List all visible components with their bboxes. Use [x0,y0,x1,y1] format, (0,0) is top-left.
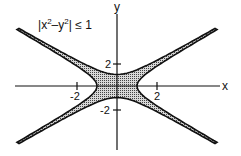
y-tick-label-neg2: -2 [100,104,110,116]
x-tick-label-2: 2 [154,90,160,102]
hyperbola-plot: x y -2 2 2 -2 [0,0,241,156]
x-tick-label-neg2: -2 [70,90,80,102]
region-equation-label: |x2–y2| ≤ 1 [38,17,92,32]
y-axis-label: y [114,0,120,14]
y-tick-label-2: 2 [105,58,111,70]
x-axis-label: x [222,79,228,93]
